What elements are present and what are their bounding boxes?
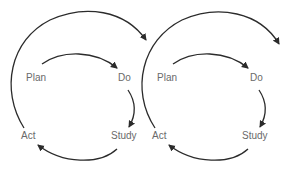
cycle-2-do-label: Do xyxy=(250,73,263,83)
cycle-2-outer-arrow xyxy=(142,12,279,128)
cycle-1-do-to-study-arrow xyxy=(128,90,134,127)
cycle-1-act-label: Act xyxy=(21,131,35,141)
cycle-1-plan-to-do-arrow xyxy=(42,54,117,68)
cycle-2-do-to-study-arrow xyxy=(259,90,265,127)
cycle-2-study-label: Study xyxy=(242,131,268,141)
cycle-2-act-label: Act xyxy=(152,131,166,141)
cycle-2-study-to-act-arrow xyxy=(169,145,248,160)
cycle-2-plan-to-do-arrow xyxy=(173,54,248,68)
cycle-1-plan-label: Plan xyxy=(26,73,46,83)
cycle-1-study-label: Study xyxy=(111,131,137,141)
cycle-2-plan-label: Plan xyxy=(157,73,177,83)
cycle-1-study-to-act-arrow xyxy=(38,145,117,160)
cycle-1-do-label: Do xyxy=(118,73,131,83)
cycle-1-outer-arrow xyxy=(11,11,146,128)
pdsa-diagram xyxy=(0,0,285,172)
